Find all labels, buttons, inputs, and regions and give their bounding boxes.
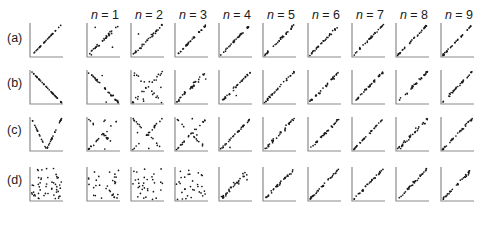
- data-point: [112, 180, 114, 182]
- data-point: [51, 137, 53, 139]
- data-point: [97, 139, 99, 141]
- data-point: [114, 99, 116, 101]
- data-point: [110, 140, 112, 142]
- data-point: [286, 32, 288, 34]
- data-point: [277, 185, 279, 187]
- data-point: [138, 33, 140, 35]
- data-point: [368, 86, 370, 88]
- data-point: [467, 174, 469, 176]
- data-point: [402, 194, 404, 196]
- data-point: [198, 191, 200, 193]
- data-point: [322, 40, 324, 42]
- data-point: [408, 139, 410, 141]
- data-point: [455, 135, 457, 137]
- data-point: [45, 40, 47, 42]
- data-point: [312, 50, 314, 52]
- data-point: [370, 132, 372, 134]
- panel-d-n4: [219, 167, 252, 201]
- data-point: [201, 175, 203, 177]
- data-point: [114, 173, 116, 175]
- data-point: [133, 74, 135, 76]
- data-point: [361, 190, 363, 192]
- data-point: [190, 197, 192, 199]
- data-point: [45, 193, 47, 195]
- data-point: [141, 91, 143, 93]
- data-point: [95, 79, 97, 81]
- data-point: [321, 42, 323, 44]
- data-point: [202, 143, 204, 145]
- data-point: [309, 100, 311, 102]
- data-point: [447, 48, 449, 50]
- data-point: [414, 182, 416, 184]
- data-point: [470, 71, 472, 73]
- data-point: [417, 128, 419, 130]
- data-point: [36, 49, 38, 51]
- data-point: [188, 135, 190, 137]
- data-point: [194, 128, 196, 130]
- data-point: [98, 45, 100, 47]
- data-point: [46, 168, 48, 170]
- original-panel-b: [30, 70, 63, 104]
- data-point: [142, 185, 144, 187]
- data-point: [151, 137, 153, 139]
- data-point: [177, 199, 179, 201]
- data-point: [94, 77, 96, 79]
- data-point: [223, 51, 225, 53]
- data-point: [137, 187, 139, 189]
- data-point: [373, 33, 375, 35]
- data-point: [199, 76, 201, 78]
- data-point: [376, 174, 378, 176]
- data-point: [410, 41, 412, 43]
- data-point: [159, 145, 161, 147]
- data-point: [317, 140, 319, 142]
- data-point: [336, 27, 338, 29]
- data-point: [193, 84, 195, 86]
- data-point: [238, 181, 240, 183]
- data-point: [415, 180, 417, 182]
- data-point: [334, 29, 336, 31]
- panel-d-n6: [308, 167, 341, 201]
- data-point: [365, 136, 367, 138]
- data-point: [59, 122, 61, 124]
- data-point: [363, 138, 365, 140]
- data-point: [88, 184, 90, 186]
- data-point: [148, 86, 150, 88]
- data-point: [417, 130, 419, 132]
- data-point: [157, 29, 159, 31]
- data-point: [310, 196, 312, 198]
- data-point: [184, 176, 186, 178]
- data-point: [141, 45, 143, 47]
- data-point: [292, 119, 294, 121]
- data-point: [398, 54, 400, 56]
- data-point: [198, 81, 200, 83]
- panel-d-n7: [352, 167, 385, 201]
- data-point: [469, 27, 471, 29]
- data-point: [363, 91, 365, 93]
- data-point: [283, 81, 285, 83]
- data-point: [230, 43, 232, 45]
- data-point: [151, 34, 153, 36]
- data-point: [353, 54, 355, 56]
- data-point: [149, 37, 151, 39]
- data-point: [399, 53, 401, 55]
- data-point: [154, 182, 156, 184]
- data-point: [105, 188, 107, 190]
- data-point: [338, 168, 340, 170]
- data-point: [155, 79, 157, 81]
- data-point: [410, 88, 412, 90]
- data-point: [38, 134, 40, 136]
- panel-b-n8: [396, 70, 429, 104]
- data-point: [48, 37, 50, 39]
- row-label-a: (a): [7, 31, 22, 45]
- data-point: [356, 51, 358, 53]
- data-point: [374, 32, 376, 34]
- data-point: [279, 133, 281, 135]
- data-point: [267, 144, 269, 146]
- data-point: [272, 142, 274, 144]
- data-point: [399, 99, 401, 101]
- data-point: [104, 119, 106, 121]
- data-point: [101, 75, 103, 77]
- data-point: [204, 190, 206, 192]
- data-point: [118, 170, 120, 172]
- data-point: [115, 176, 117, 178]
